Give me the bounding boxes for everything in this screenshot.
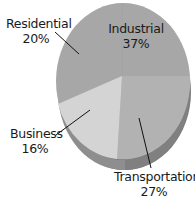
label-business: Business 16%	[10, 126, 60, 156]
label-industrial: Industrial 37%	[108, 21, 164, 51]
label-residential-pct: 20%	[6, 31, 66, 46]
slice-transportation	[117, 76, 190, 159]
label-business-pct: 16%	[10, 141, 60, 156]
label-residential-name: Residential	[6, 16, 66, 31]
label-business-name: Business	[10, 126, 60, 141]
label-industrial-name: Industrial	[108, 21, 164, 36]
label-residential: Residential 20%	[6, 16, 66, 46]
label-transportation-name: Transportation	[114, 169, 194, 184]
label-transportation-pct: 27%	[114, 184, 194, 199]
label-transportation: Transportation 27%	[114, 169, 194, 199]
label-industrial-pct: 37%	[108, 36, 164, 51]
